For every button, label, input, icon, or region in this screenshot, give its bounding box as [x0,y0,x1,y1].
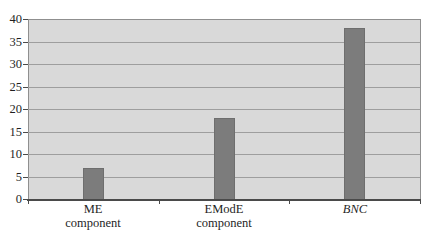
y-axis-label-15: 15 [0,125,22,139]
y-tick-35 [23,42,28,43]
bar-emode-component [214,118,235,199]
y-tick-15 [23,132,28,133]
y-axis-label-0: 0 [0,192,22,206]
x-axis-label-bnc: BNC [285,202,425,216]
y-axis-label-25: 25 [0,80,22,94]
x-axis-label-emode-component: EModEcomponent [154,202,294,230]
y-tick-40 [23,19,28,20]
y-axis-label-5: 5 [0,170,22,184]
x-axis-label-line: BNC [285,202,425,216]
x-axis-label-me-component: MEcomponent [23,202,163,230]
y-axis-label-10: 10 [0,147,22,161]
y-axis-label-20: 20 [0,102,22,116]
bar-me-component [83,168,104,199]
x-axis-label-line: EModE [154,202,294,216]
y-tick-20 [23,109,28,110]
x-axis-label-line: component [154,216,294,230]
y-axis-label-35: 35 [0,35,22,49]
y-axis-label-30: 30 [0,57,22,71]
y-tick-25 [23,87,28,88]
y-axis-label-40: 40 [0,12,22,26]
bar-bnc [344,28,365,199]
bar-chart-figure: 0510152025303540MEcomponentEModEcomponen… [0,0,432,237]
x-axis-label-line: component [23,216,163,230]
x-axis-label-line: ME [23,202,163,216]
y-tick-5 [23,177,28,178]
y-tick-10 [23,154,28,155]
x-axis-line [27,199,421,201]
y-tick-30 [23,64,28,65]
